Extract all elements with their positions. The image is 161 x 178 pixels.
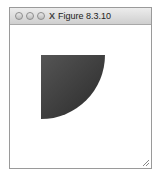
resize-grip-icon[interactable] [141, 158, 150, 167]
minimize-button[interactable] [26, 12, 34, 20]
x11-app-icon: X [49, 11, 55, 21]
zoom-button[interactable] [37, 12, 45, 20]
close-button[interactable] [15, 12, 23, 20]
figure-window: X Figure 8.3.10 [9, 7, 152, 169]
title-bar[interactable]: X Figure 8.3.10 [10, 8, 151, 25]
window-title: Figure 8.3.10 [58, 11, 111, 21]
figure-canvas [10, 25, 151, 168]
quarter-disc-graphic [10, 25, 151, 169]
